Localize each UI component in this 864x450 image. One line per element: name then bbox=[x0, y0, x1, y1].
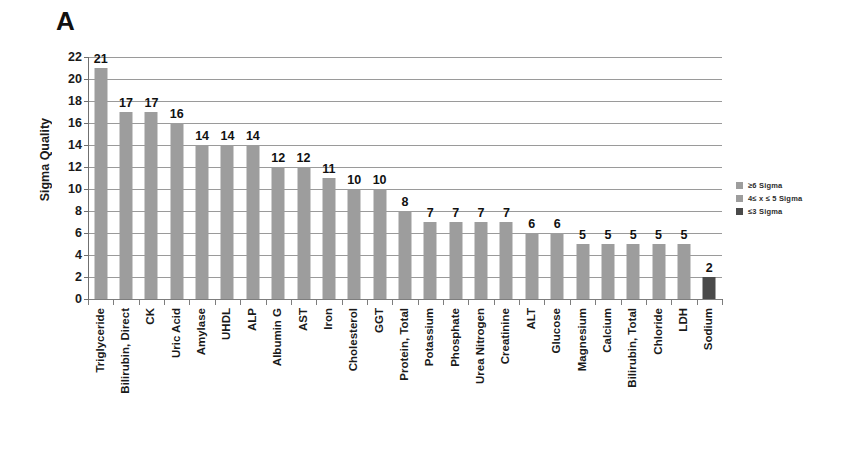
bar-value-label: 5 bbox=[579, 228, 586, 242]
x-tick-mark bbox=[595, 300, 596, 305]
bar-group[interactable]: 5 bbox=[595, 57, 620, 299]
bar-group[interactable]: 7 bbox=[443, 57, 468, 299]
legend: ≥6 Sigma4≤ x ≤ 5 Sigma≤3 Sigma bbox=[736, 179, 856, 218]
sigma-quality-bar-chart-figure: A Sigma Quality 024681012141618202221171… bbox=[0, 0, 864, 450]
bar[interactable] bbox=[677, 244, 690, 299]
bar-group[interactable]: 10 bbox=[367, 57, 392, 299]
x-tick-mark bbox=[291, 300, 292, 305]
bar[interactable] bbox=[221, 145, 234, 299]
x-tick-mark bbox=[570, 300, 571, 305]
x-tick-mark bbox=[392, 300, 393, 305]
x-tick-mark bbox=[494, 300, 495, 305]
x-axis-label: UHDL bbox=[221, 308, 233, 340]
bar[interactable] bbox=[652, 244, 665, 299]
bar-group[interactable]: 14 bbox=[215, 57, 240, 299]
bar-group[interactable]: 21 bbox=[88, 57, 113, 299]
bar-group[interactable]: 12 bbox=[266, 57, 291, 299]
bar[interactable] bbox=[703, 277, 716, 299]
bar-group[interactable]: 5 bbox=[671, 57, 696, 299]
bar-group[interactable]: 7 bbox=[418, 57, 443, 299]
bar[interactable] bbox=[348, 189, 361, 299]
bar-value-label: 7 bbox=[503, 206, 510, 220]
y-tick-label: 8 bbox=[75, 204, 82, 218]
bar[interactable] bbox=[322, 178, 335, 299]
bar-value-label: 14 bbox=[221, 129, 235, 143]
bar[interactable] bbox=[196, 145, 209, 299]
x-tick-mark bbox=[367, 300, 368, 305]
bar[interactable] bbox=[170, 123, 183, 299]
x-axis-label: Protein, Total bbox=[399, 308, 411, 381]
legend-item[interactable]: ≤3 Sigma bbox=[736, 205, 856, 217]
bar-value-label: 7 bbox=[427, 206, 434, 220]
bar-group[interactable]: 14 bbox=[240, 57, 265, 299]
bar-group[interactable]: 6 bbox=[544, 57, 569, 299]
bar[interactable] bbox=[398, 211, 411, 299]
x-tick-mark bbox=[139, 300, 140, 305]
x-axis-label: Bilirubin, Total bbox=[627, 308, 639, 388]
bar[interactable] bbox=[297, 167, 310, 299]
legend-label: ≤3 Sigma bbox=[748, 207, 782, 216]
bar-value-label: 8 bbox=[402, 195, 409, 209]
x-axis-label: Amylase bbox=[196, 308, 208, 355]
bar-group[interactable]: 17 bbox=[113, 57, 138, 299]
bar-group[interactable]: 7 bbox=[494, 57, 519, 299]
bar[interactable] bbox=[551, 233, 564, 299]
bar-value-label: 5 bbox=[630, 228, 637, 242]
bar-group[interactable]: 5 bbox=[621, 57, 646, 299]
bar-value-label: 14 bbox=[195, 129, 209, 143]
x-tick-mark bbox=[468, 300, 469, 305]
bar-group[interactable]: 10 bbox=[342, 57, 367, 299]
x-tick-mark bbox=[88, 300, 89, 305]
bar-value-label: 7 bbox=[452, 206, 459, 220]
x-axis-label: Magnesium bbox=[577, 308, 589, 371]
x-axis-label: Uric Acid bbox=[171, 308, 183, 358]
x-tick-mark bbox=[189, 300, 190, 305]
x-tick-mark bbox=[519, 300, 520, 305]
bar-group[interactable]: 11 bbox=[316, 57, 341, 299]
bar-group[interactable]: 12 bbox=[291, 57, 316, 299]
bar[interactable] bbox=[145, 112, 158, 299]
bar[interactable] bbox=[449, 222, 462, 299]
x-tick-mark bbox=[316, 300, 317, 305]
bar[interactable] bbox=[424, 222, 437, 299]
bar[interactable] bbox=[525, 233, 538, 299]
y-tick-label: 12 bbox=[68, 160, 82, 174]
bar-group[interactable]: 5 bbox=[646, 57, 671, 299]
bar[interactable] bbox=[246, 145, 259, 299]
bar-value-label: 2 bbox=[706, 261, 713, 275]
x-axis-label: AST bbox=[298, 308, 310, 331]
x-axis-label: GGT bbox=[374, 308, 386, 333]
bar[interactable] bbox=[94, 68, 107, 299]
bar-group[interactable]: 5 bbox=[570, 57, 595, 299]
bar-group[interactable]: 2 bbox=[697, 57, 722, 299]
bar[interactable] bbox=[373, 189, 386, 299]
x-axis-label: Bilirubin, Direct bbox=[120, 308, 132, 394]
bar-group[interactable]: 6 bbox=[519, 57, 544, 299]
x-axis-label: Iron bbox=[323, 308, 335, 330]
gridline bbox=[88, 299, 722, 300]
y-tick-label: 20 bbox=[68, 72, 82, 86]
bar[interactable] bbox=[500, 222, 513, 299]
legend-item[interactable]: 4≤ x ≤ 5 Sigma bbox=[736, 192, 856, 204]
bar[interactable] bbox=[627, 244, 640, 299]
x-axis-label: Chloride bbox=[653, 308, 665, 355]
bar-group[interactable]: 7 bbox=[468, 57, 493, 299]
bar[interactable] bbox=[475, 222, 488, 299]
bar-value-label: 17 bbox=[144, 96, 158, 110]
bar-group[interactable]: 14 bbox=[189, 57, 214, 299]
legend-item[interactable]: ≥6 Sigma bbox=[736, 179, 856, 191]
bar-value-label: 10 bbox=[347, 173, 361, 187]
bar[interactable] bbox=[120, 112, 133, 299]
bar[interactable] bbox=[272, 167, 285, 299]
y-tick-label: 10 bbox=[68, 182, 82, 196]
bar[interactable] bbox=[576, 244, 589, 299]
bar[interactable] bbox=[601, 244, 614, 299]
bar-group[interactable]: 16 bbox=[164, 57, 189, 299]
bar-value-label: 5 bbox=[680, 228, 687, 242]
x-tick-mark bbox=[418, 300, 419, 305]
bar-group[interactable]: 17 bbox=[139, 57, 164, 299]
bar-group[interactable]: 8 bbox=[392, 57, 417, 299]
bar-value-label: 5 bbox=[604, 228, 611, 242]
bar-value-label: 21 bbox=[94, 52, 108, 66]
y-tick-label: 18 bbox=[68, 94, 82, 108]
